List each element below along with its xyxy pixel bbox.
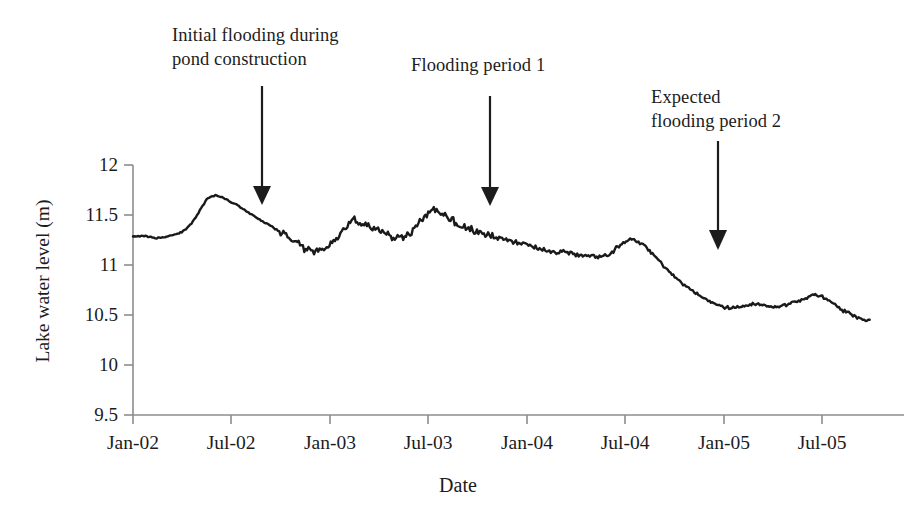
y-axis-title: Lake water level (m) (32, 156, 54, 406)
annotation-arrow-initial-flooding (253, 86, 271, 205)
annotation-expected-flooding-period-2: Expected flooding period 2 (651, 86, 781, 133)
annotation-initial-flooding: Initial flooding during pond constructio… (172, 24, 339, 71)
lake-water-level-figure: Initial flooding during pond constructio… (0, 0, 916, 525)
y-tick-label-11: 11 (62, 254, 118, 276)
annotation-arrow-flooding-period-1 (481, 96, 499, 206)
x-axis-ticks (133, 415, 822, 424)
y-axis-ticks (124, 165, 133, 415)
axis-lines (133, 165, 904, 415)
y-tick-label-10: 10 (62, 354, 118, 376)
x-tick-label-jul-04: Jul-04 (570, 432, 680, 454)
x-tick-label-jul-02: Jul-02 (176, 432, 286, 454)
x-axis-title: Date (0, 474, 916, 497)
x-tick-label-jan-03: Jan-03 (275, 432, 385, 454)
y-tick-label-9-5: 9.5 (62, 404, 118, 426)
y-tick-label-10-5: 10.5 (62, 304, 118, 326)
x-tick-label-jan-04: Jan-04 (472, 432, 582, 454)
x-tick-label-jul-05: Jul-05 (767, 432, 877, 454)
x-tick-label-jan-05: Jan-05 (669, 432, 779, 454)
annotation-arrow-expected-flooding-period-2 (709, 141, 727, 250)
y-tick-label-11-5: 11.5 (62, 204, 118, 226)
data-series-line (133, 195, 870, 321)
x-tick-label-jan-02: Jan-02 (78, 432, 188, 454)
annotation-flooding-period-1: Flooding period 1 (411, 54, 545, 78)
y-tick-label-12: 12 (62, 154, 118, 176)
x-tick-label-jul-03: Jul-03 (373, 432, 483, 454)
